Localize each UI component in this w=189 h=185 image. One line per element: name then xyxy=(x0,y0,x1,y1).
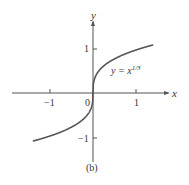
x-axis-arrow-icon xyxy=(164,91,170,95)
tick-label-y-pos: 1 xyxy=(84,43,89,54)
origin-label: 0 xyxy=(85,97,90,108)
tick-label-y-neg: −1 xyxy=(78,133,89,144)
tick-label-x-neg: −1 xyxy=(44,97,55,108)
y-axis-label: y xyxy=(90,9,96,21)
tick-label-x-pos: 1 xyxy=(134,97,139,108)
x-axis-label: x xyxy=(171,87,177,99)
chart: x y 0 −1 1 1 −1 y = x1/3 (b) xyxy=(0,0,189,185)
caption: (b) xyxy=(86,162,98,174)
curve-label: y = x1/3 xyxy=(110,64,141,76)
